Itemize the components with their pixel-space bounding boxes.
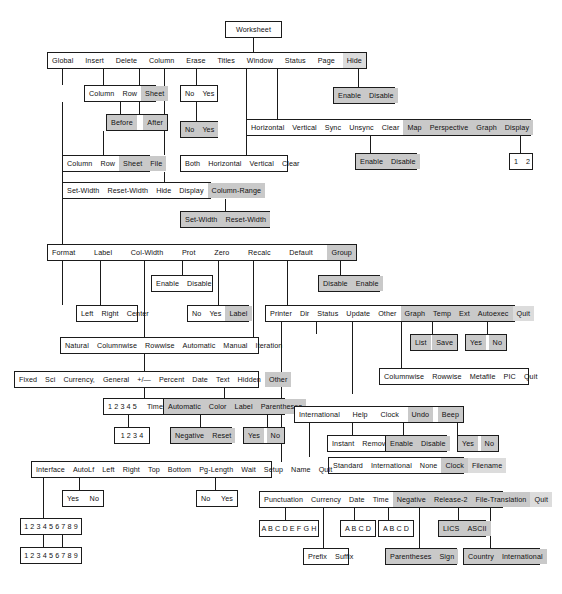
node-label-alignment[interactable]: LeftRightCenter <box>76 305 138 322</box>
node-intl-punctuation[interactable]: A B C D E F G H <box>259 520 319 537</box>
menu-item[interactable]: After <box>143 115 167 130</box>
node-column-range[interactable]: Set-WidthReset-Width <box>180 211 270 228</box>
menu-item[interactable]: Yes <box>63 491 83 506</box>
menu-item[interactable]: Hide <box>343 53 366 68</box>
menu-item[interactable]: Default <box>285 245 316 260</box>
menu-item[interactable]: Titles <box>213 53 239 68</box>
menu-item[interactable]: Natural <box>61 338 93 353</box>
menu-item[interactable]: List <box>411 335 431 350</box>
node-default-menu[interactable]: PrinterDirStatusUpdateOtherGraphTempExtA… <box>265 305 515 322</box>
node-other-color[interactable]: NegativeReset <box>170 427 232 444</box>
menu-item[interactable]: Columnwise <box>93 338 141 353</box>
menu-item[interactable]: Filename <box>468 458 506 473</box>
node-intl-currency-placement[interactable]: PrefixSuffix <box>303 548 349 565</box>
node-hide-enable[interactable]: EnableDisable <box>333 87 395 104</box>
node-printer-wait[interactable]: NoYes <box>196 490 238 507</box>
node-format-time-options[interactable]: 1 2 3 4 <box>114 427 150 444</box>
menu-item[interactable]: Unsync <box>345 120 378 135</box>
menu-item[interactable]: Other <box>265 372 291 387</box>
menu-item[interactable]: Horizontal <box>204 156 245 171</box>
menu-item[interactable]: Disable <box>365 88 398 103</box>
node-window-map-enable[interactable]: EnableDisable <box>355 153 417 170</box>
menu-item[interactable]: Sheet <box>141 86 168 101</box>
node-intl-negative[interactable]: ParenthesesSign <box>385 548 457 565</box>
node-interface-options-1[interactable]: 1 2 3 4 5 6 7 8 9 <box>20 518 82 535</box>
menu-item[interactable]: Recalc <box>244 245 275 260</box>
menu-item[interactable]: Negative <box>393 492 430 507</box>
menu-item[interactable]: Group <box>327 245 355 260</box>
menu-item[interactable]: Column-Range <box>208 183 266 198</box>
menu-item[interactable]: Pg-Length <box>195 462 237 477</box>
menu-item[interactable]: Label <box>225 306 251 321</box>
menu-item[interactable]: No <box>197 491 214 506</box>
menu-item[interactable]: A B C D <box>379 521 413 536</box>
menu-item[interactable]: Yes <box>198 86 218 101</box>
menu-item[interactable]: Percent <box>155 372 188 387</box>
menu-item[interactable]: Quit <box>315 462 337 477</box>
menu-item[interactable]: Hidden <box>234 372 265 387</box>
menu-item[interactable]: No <box>267 428 284 443</box>
node-prot-enable[interactable]: EnableDisable <box>151 275 213 292</box>
menu-item[interactable]: Release-2 <box>430 492 472 507</box>
menu-item[interactable]: +/— <box>133 372 155 387</box>
node-intl-release2[interactable]: LICSASCII <box>438 520 486 537</box>
node-intl-time[interactable]: A B C D <box>378 520 414 537</box>
node-main-menu[interactable]: GlobalInsertDeleteColumnEraseTitlesWindo… <box>47 52 367 69</box>
menu-item[interactable]: None <box>416 458 442 473</box>
menu-item[interactable]: Date <box>188 372 212 387</box>
node-window-menu[interactable]: HorizontalVerticalSyncUnsyncClearMapPers… <box>246 119 531 136</box>
menu-item[interactable]: Prefix <box>304 549 331 564</box>
menu-item[interactable]: Interface <box>32 462 69 477</box>
menu-item[interactable]: Ext <box>455 306 474 321</box>
menu-item[interactable]: Column <box>85 86 118 101</box>
menu-item[interactable]: No <box>481 436 498 451</box>
menu-item[interactable]: Label <box>90 245 116 260</box>
node-global-menu[interactable]: FormatLabelCol-WidthProtZeroRecalcDefaul… <box>47 244 357 261</box>
menu-item[interactable]: Rowwise <box>141 338 178 353</box>
menu-item[interactable]: International <box>498 549 547 564</box>
menu-item[interactable]: Left <box>98 462 118 477</box>
node-undo-enable[interactable]: EnableDisable <box>385 435 447 452</box>
menu-item[interactable]: 1 2 3 4 5 <box>104 399 141 414</box>
menu-item[interactable]: No <box>86 491 103 506</box>
node-format-menu[interactable]: FixedSciCurrency,General+/—PercentDateTe… <box>14 371 259 388</box>
menu-item[interactable]: AutoLf <box>69 462 98 477</box>
menu-item[interactable]: Date <box>345 492 369 507</box>
menu-item[interactable]: Yes <box>458 436 478 451</box>
menu-item[interactable]: Fixed <box>15 372 41 387</box>
menu-item[interactable]: Center <box>123 306 153 321</box>
menu-item[interactable]: Enable <box>334 88 365 103</box>
node-other-format-menu[interactable]: AutomaticColorLabelParentheses <box>163 398 285 415</box>
menu-item[interactable]: Printer <box>266 306 296 321</box>
menu-item[interactable]: Suffix <box>331 549 357 564</box>
node-interface-options-2[interactable]: 1 2 3 4 5 6 7 8 9 <box>20 547 82 564</box>
menu-item[interactable]: Right <box>97 306 122 321</box>
menu-item[interactable]: Yes <box>466 335 486 350</box>
menu-item[interactable]: Manual <box>219 338 251 353</box>
menu-item[interactable]: 1 2 3 4 <box>117 428 148 443</box>
menu-item[interactable]: Vertical <box>246 156 278 171</box>
menu-item[interactable]: Disable <box>387 154 420 169</box>
menu-item[interactable]: A B C D E F G H <box>257 521 320 536</box>
menu-item[interactable]: Window <box>243 53 277 68</box>
menu-item[interactable]: PIC <box>500 369 520 384</box>
menu-item[interactable]: Yes <box>198 122 218 137</box>
menu-item[interactable]: Other <box>374 306 400 321</box>
node-titles-menu[interactable]: BothHorizontalVerticalClear <box>180 155 288 172</box>
node-window-display-option[interactable]: 12 <box>509 153 533 170</box>
menu-item[interactable]: Set-Width <box>181 212 221 227</box>
node-clock-menu[interactable]: StandardInternationalNoneClockFilename <box>328 457 464 474</box>
menu-item[interactable]: Text <box>212 372 234 387</box>
menu-item[interactable]: File <box>146 156 166 171</box>
menu-item[interactable]: Sheet <box>119 156 146 171</box>
menu-item[interactable]: Horizontal <box>247 120 288 135</box>
node-insert-before-after[interactable]: BeforeAfter <box>106 114 168 131</box>
menu-item[interactable]: Undo <box>408 407 434 422</box>
menu-item[interactable]: Left <box>77 306 97 321</box>
menu-item[interactable]: No <box>181 86 198 101</box>
menu-item[interactable]: Display <box>501 120 533 135</box>
menu-item[interactable]: Time <box>369 492 393 507</box>
node-printer-autolf[interactable]: YesNo <box>62 490 104 507</box>
menu-item[interactable]: Quit <box>530 492 552 507</box>
menu-item[interactable]: ASCII <box>463 521 490 536</box>
